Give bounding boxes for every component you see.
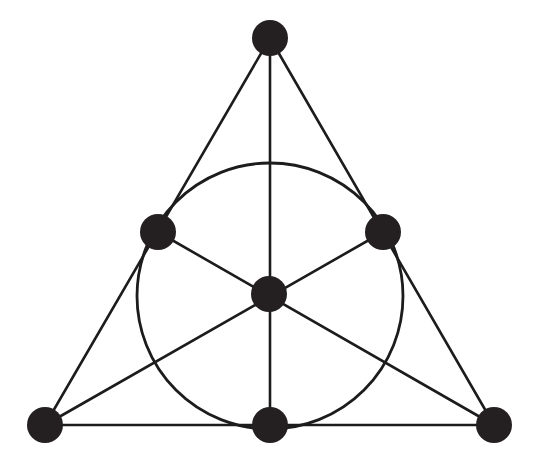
point-mid-right <box>365 214 401 250</box>
edge-layer <box>45 38 494 425</box>
line-median-right <box>45 232 383 425</box>
point-center <box>251 276 287 312</box>
fano-plane-figure <box>0 0 539 466</box>
point-mid-left <box>140 214 176 250</box>
fano-plane-canvas <box>0 0 539 466</box>
point-bottom-left <box>27 407 63 443</box>
point-apex <box>252 20 288 56</box>
point-bottom-mid <box>252 407 288 443</box>
line-median-left <box>158 232 494 425</box>
point-bottom-right <box>476 407 512 443</box>
